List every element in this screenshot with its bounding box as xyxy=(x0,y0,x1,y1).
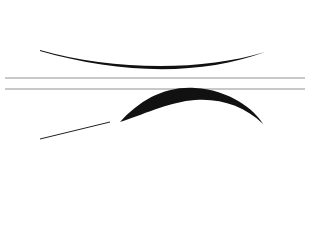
top-curve xyxy=(40,50,265,69)
precipitate-arc xyxy=(120,88,263,124)
diagram-canvas xyxy=(0,0,312,231)
lower-tail-line xyxy=(40,122,110,139)
